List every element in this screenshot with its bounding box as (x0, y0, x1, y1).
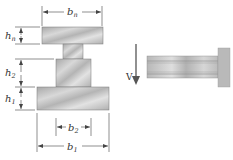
dimension-middle-height (15, 59, 54, 86)
dimension-top-height (15, 27, 40, 44)
label-middle-height: h2 (5, 67, 16, 80)
composite-beam-diagram: bn hn h2 h1 b2 b1 (0, 0, 233, 160)
bottom-flange (37, 87, 109, 110)
label-top-width: bn (67, 6, 78, 19)
middle-block (56, 59, 91, 87)
label-middle-width: b2 (68, 122, 79, 135)
label-top-height: hn (5, 30, 16, 43)
label-bottom-width: b1 (67, 141, 78, 154)
cross-section (37, 27, 109, 110)
neck (63, 44, 83, 59)
fixed-wall-support (218, 48, 230, 87)
label-shear-force: V (125, 72, 133, 82)
beam-body (147, 56, 218, 78)
dimension-bottom-height (15, 87, 35, 110)
shear-force-arrow-icon (132, 44, 140, 85)
label-bottom-height: h1 (5, 93, 16, 106)
beam-side-view (147, 48, 230, 87)
top-flange (42, 27, 103, 44)
